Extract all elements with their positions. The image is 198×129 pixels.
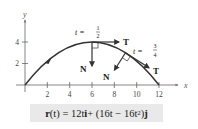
formula-j: j [144,108,148,119]
t-half-den: 2 [97,33,100,39]
x-tick-label: 12 [155,90,163,99]
formula-part: (t) = 12t [50,108,85,119]
t-three-quarters-num: 3 [154,43,157,49]
x-axis-label: x [183,81,188,90]
x-tick-label: 2 [45,90,49,99]
t-half-label: t = [75,28,85,37]
t-three-quarters-label: t = [133,47,143,56]
x-tick-label: 10 [133,90,141,99]
x-tick-label: 6 [90,90,94,99]
t-half-num: 1 [97,25,100,31]
tangent-label-three-quarters: T [153,66,159,76]
tangent-label-half: T [123,37,129,47]
y-tick-label: 4 [15,38,19,47]
vector-function-formula: r (t) = 12t i + (16t − 16t 2 ) j [30,104,163,122]
normal-label-three-quarters: N [103,72,110,82]
t-three-quarters-den: 4 [154,52,157,58]
direction-arrow-icon [45,57,52,64]
normal-vector-three-quarters [115,53,126,70]
formula-part: + (16t − 16t [87,108,137,119]
x-tick-label: 4 [68,90,72,99]
normal-label-half: N [80,64,87,74]
x-tick-label: 8 [112,90,116,99]
y-axis-label: y [22,10,27,19]
y-tick-label: 2 [15,59,19,68]
